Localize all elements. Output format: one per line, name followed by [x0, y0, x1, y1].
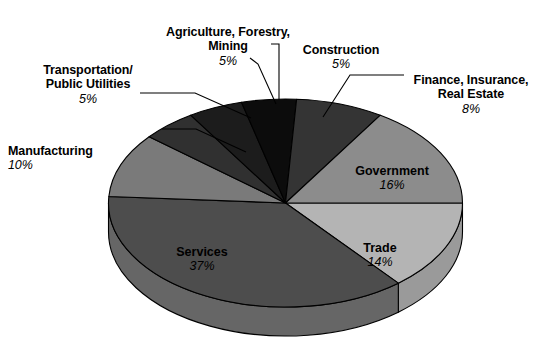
- label-transportation-pct: 5%: [14, 92, 162, 107]
- label-construction-pct: 5%: [275, 57, 407, 72]
- label-transportation: Transportation/ Public Utilities 5%: [14, 48, 162, 121]
- label-transportation-text: Transportation/ Public Utilities: [43, 63, 132, 92]
- label-finance: Finance, Insurance, Real Estate 8%: [397, 58, 545, 131]
- label-services: Services 37%: [150, 230, 254, 289]
- label-trade-text: Trade: [363, 241, 396, 255]
- label-construction: Construction 5%: [275, 28, 407, 87]
- label-manufacturing-text: Manufacturing: [8, 144, 93, 158]
- label-finance-text: Finance, Insurance, Real Estate: [414, 73, 529, 102]
- label-finance-pct: 8%: [397, 102, 545, 117]
- pie-chart-figure: Agriculture, Forestry, Mining 5% Transpo…: [0, 0, 547, 359]
- label-manufacturing-pct: 10%: [8, 158, 156, 173]
- label-services-text: Services: [176, 245, 227, 259]
- label-government: Government 16%: [336, 149, 448, 208]
- label-services-pct: 37%: [150, 259, 254, 274]
- label-government-pct: 16%: [336, 178, 448, 193]
- label-construction-text: Construction: [303, 43, 380, 57]
- label-trade: Trade 14%: [340, 226, 420, 285]
- label-trade-pct: 14%: [340, 255, 420, 270]
- label-agriculture-text: Agriculture, Forestry, Mining: [166, 25, 290, 54]
- label-government-text: Government: [355, 164, 429, 178]
- label-manufacturing: Manufacturing 10%: [8, 129, 156, 188]
